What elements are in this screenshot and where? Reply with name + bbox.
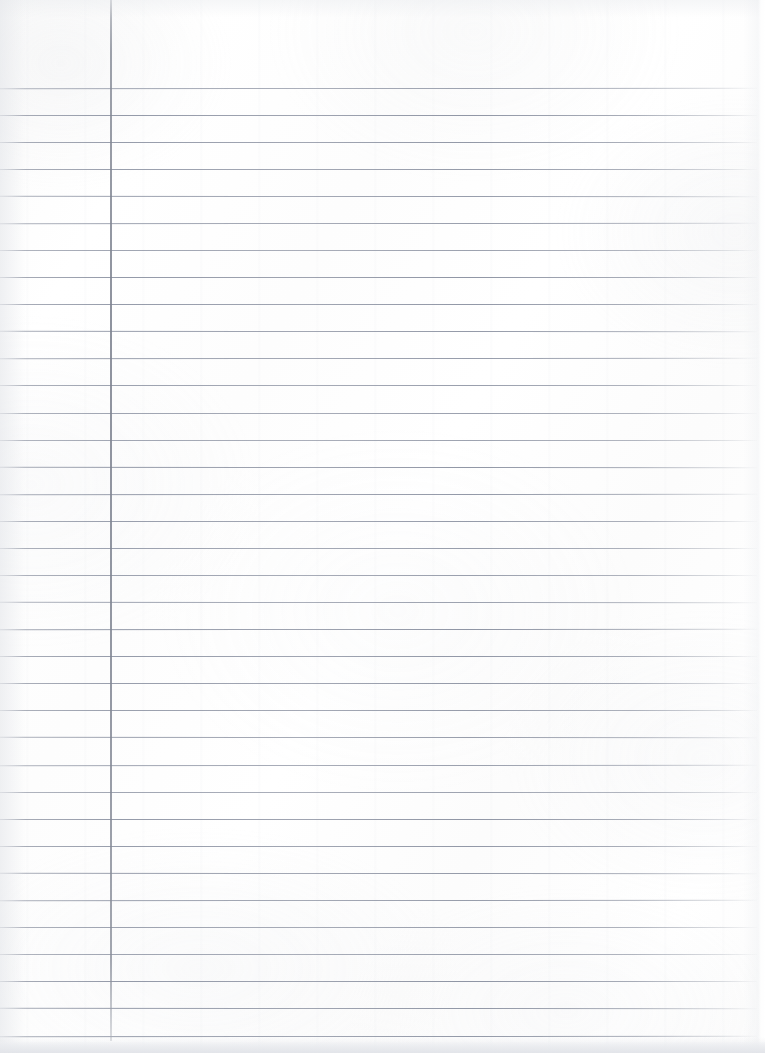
scan-right-trim — [758, 0, 765, 1053]
left-margin-column[interactable] — [0, 0, 110, 1041]
scan-bottom-strip — [0, 1042, 765, 1053]
header-area[interactable] — [111, 0, 757, 88]
notebook-page — [0, 0, 765, 1053]
writing-area[interactable] — [111, 88, 757, 1041]
